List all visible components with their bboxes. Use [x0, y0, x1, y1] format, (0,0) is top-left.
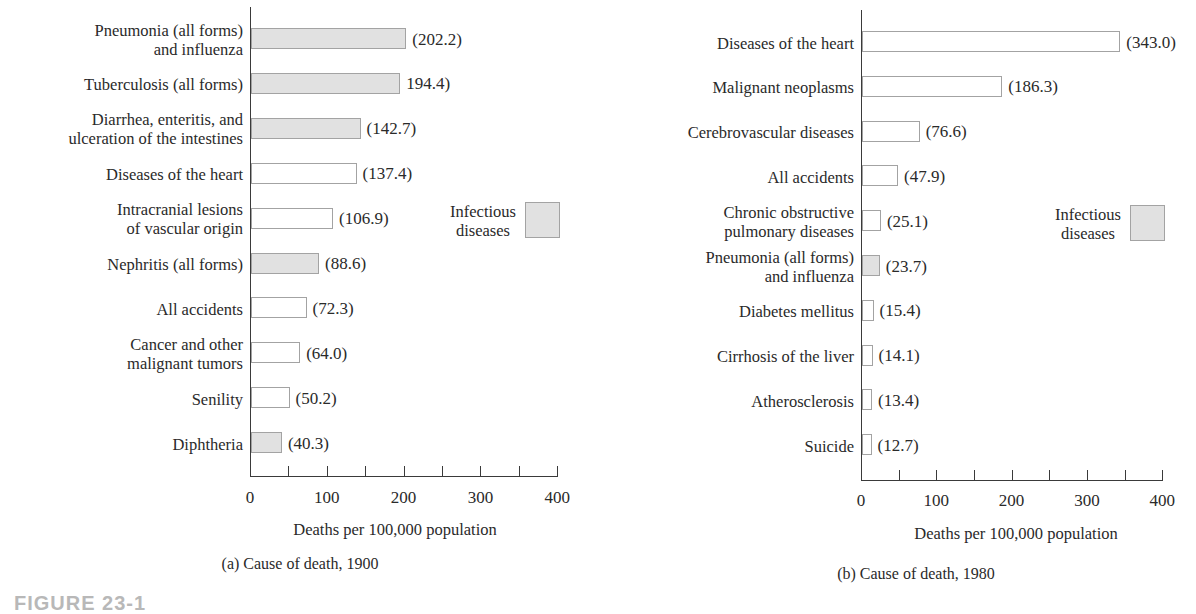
bar-row: All accidents(47.9): [598, 165, 1196, 188]
category-label: Chronic obstructive pulmonary diseases: [723, 203, 854, 241]
x-tick-label: 300: [1074, 491, 1100, 511]
category-label: Malignant neoplasms: [712, 78, 854, 97]
category-label: All accidents: [767, 167, 854, 186]
x-tick-label: 0: [246, 488, 255, 508]
bar-row: Diseases of the heart(343.0): [598, 31, 1196, 54]
bar: [251, 342, 300, 363]
x-tick: [404, 466, 405, 477]
bar: [862, 345, 873, 366]
bar: [862, 165, 898, 186]
legend-1900: Infectious diseases: [420, 202, 560, 242]
category-label: Cirrhosis of the liver: [717, 347, 854, 366]
bar: [862, 121, 920, 142]
value-label: (72.3): [313, 299, 354, 319]
value-label: (343.0): [1126, 33, 1176, 53]
value-label: (13.4): [878, 391, 919, 411]
value-label: (23.7): [886, 257, 927, 277]
bar-infectious: [862, 255, 880, 276]
figure-label: FIGURE 23-1: [14, 592, 146, 614]
value-label: (202.2): [412, 30, 462, 50]
category-label: Nephritis (all forms): [107, 255, 243, 274]
bar: [862, 76, 1002, 97]
value-label: (142.7): [367, 119, 417, 139]
bar-row: Malignant neoplasms(186.3): [598, 76, 1196, 99]
y-axis-1980: [861, 10, 862, 481]
value-label: (76.6): [926, 122, 967, 142]
bar: [251, 208, 333, 229]
value-label: (137.4): [363, 164, 413, 184]
value-label: (64.0): [306, 344, 347, 364]
bar-row: Pneumonia (all forms) and influenza(23.7…: [598, 255, 1196, 278]
value-label: (14.1): [879, 346, 920, 366]
value-label: (186.3): [1008, 77, 1058, 97]
category-label: Atherosclerosis: [751, 391, 854, 410]
category-label: Diphtheria: [172, 434, 243, 453]
bar-row: Suicide(12.7): [598, 434, 1196, 457]
x-tick-label: 200: [999, 491, 1025, 511]
x-tick: [365, 466, 366, 477]
bar: [862, 31, 1120, 52]
bar: [251, 163, 357, 184]
bar-row: All accidents(72.3): [0, 297, 598, 320]
x-axis-title-1900: Deaths per 100,000 population: [293, 520, 496, 540]
chart-caption-1900: (a) Cause of death, 1900: [222, 555, 379, 573]
x-tick-label: 400: [1149, 491, 1175, 511]
category-label: Diabetes mellitus: [739, 302, 854, 321]
x-tick: [1125, 470, 1126, 481]
bar: [862, 389, 872, 410]
bar-row: Atherosclerosis(13.4): [598, 389, 1196, 412]
x-tick: [974, 470, 975, 481]
legend-swatch-infectious: [525, 202, 560, 238]
bar-row: Pneumonia (all forms) and influenza(202.…: [0, 28, 598, 51]
x-tick-label: 0: [857, 491, 866, 511]
legend-1980: Infectious diseases: [1022, 205, 1165, 245]
legend-label-infectious: Infectious diseases: [450, 202, 516, 240]
value-label: (12.7): [878, 436, 919, 456]
value-label: (25.1): [887, 212, 928, 232]
bar-infectious: [251, 118, 361, 139]
x-tick-label: 400: [544, 488, 570, 508]
bar-row: Nephritis (all forms)(88.6): [0, 253, 598, 276]
bar-row: Cirrhosis of the liver(14.1): [598, 345, 1196, 368]
legend-label-infectious: Infectious diseases: [1055, 205, 1121, 243]
bar-infectious: [251, 73, 400, 94]
category-label: Diseases of the heart: [106, 165, 243, 184]
value-label: (15.4): [880, 301, 921, 321]
bar-row: Diphtheria(40.3): [0, 432, 598, 455]
category-label: Cerebrovascular diseases: [688, 123, 854, 142]
bar: [251, 387, 290, 408]
x-tick: [1012, 470, 1013, 481]
category-label: Diseases of the heart: [717, 33, 854, 52]
x-tick: [1087, 470, 1088, 481]
bar: [862, 434, 872, 455]
value-label: (47.9): [904, 167, 945, 187]
value-label: (88.6): [325, 254, 366, 274]
bar-row: Cerebrovascular diseases(76.6): [598, 121, 1196, 144]
bar: [862, 300, 874, 321]
x-tick: [1049, 470, 1050, 481]
x-tick-label: 100: [314, 488, 340, 508]
chart-1980: Diseases of the heart(343.0)Malignant ne…: [598, 0, 1196, 605]
bar-row: Tuberculosis (all forms)194.4): [0, 73, 598, 96]
bar-infectious: [251, 432, 282, 453]
x-tick: [899, 470, 900, 481]
x-tick-label: 200: [391, 488, 417, 508]
bar-row: Diarrhea, enteritis, and ulceration of t…: [0, 118, 598, 141]
bar-row: Diseases of the heart(137.4): [0, 163, 598, 186]
category-label: Diarrhea, enteritis, and ulceration of t…: [68, 110, 243, 148]
category-label: Suicide: [805, 436, 855, 455]
bar-row: Diabetes mellitus(15.4): [598, 300, 1196, 323]
bar-infectious: [251, 253, 319, 274]
category-label: Pneumonia (all forms) and influenza: [706, 248, 854, 286]
x-tick: [288, 466, 289, 477]
value-label: 194.4): [406, 74, 450, 94]
category-label: Cancer and other malignant tumors: [127, 335, 243, 373]
x-tick: [480, 466, 481, 477]
category-label: Tuberculosis (all forms): [84, 75, 243, 94]
x-tick-label: 100: [924, 491, 950, 511]
chart-caption-1980: (b) Cause of death, 1980: [837, 565, 995, 583]
y-axis-1900: [250, 7, 251, 477]
bar: [862, 210, 881, 231]
x-tick: [442, 466, 443, 477]
value-label: (106.9): [339, 209, 389, 229]
